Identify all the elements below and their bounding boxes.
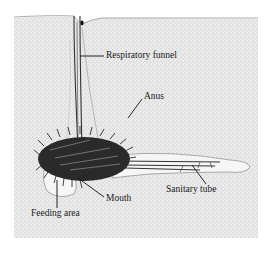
label-feeding-area: Feeding area [31, 209, 80, 219]
urchin-body [38, 137, 130, 181]
label-anus: Anus [144, 92, 164, 102]
label-respiratory-funnel: Respiratory funnel [106, 51, 177, 61]
label-sanitary-tube: Sanitary tube [166, 185, 216, 195]
label-mouth: Mouth [106, 194, 131, 204]
